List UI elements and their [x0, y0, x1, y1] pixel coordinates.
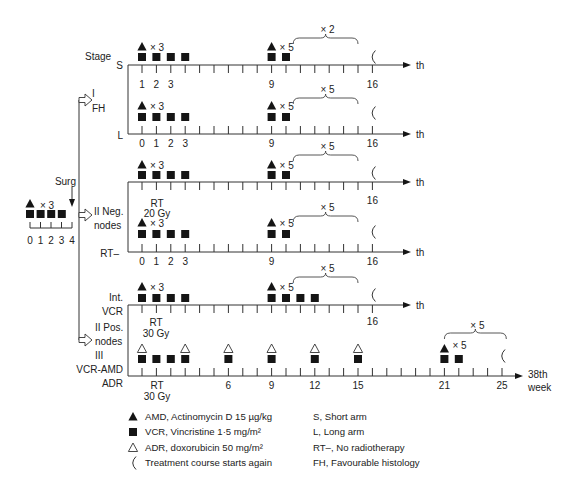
stage-branch: II Neg.nodes [79, 206, 123, 231]
vcr-marker [167, 171, 175, 179]
restart-bracket-icon [372, 289, 375, 302]
restart-bracket-icon [372, 107, 375, 120]
repeat-brace [293, 34, 358, 44]
tick-label: 3 [182, 256, 188, 267]
vcr-marker [268, 53, 276, 61]
vcr-marker [354, 355, 362, 363]
arm-label: L [117, 130, 123, 141]
timeline-row: 16× 3× 5× 5th [128, 141, 424, 206]
repeat-brace [293, 94, 358, 104]
tick-label: 3 [168, 79, 174, 90]
repeat-label: × 5 [321, 141, 336, 152]
tick-label: 16 [367, 195, 379, 206]
vcr-marker [282, 53, 290, 61]
vcr-marker [152, 230, 160, 238]
amd-marker [137, 218, 146, 227]
vcr-marker [181, 53, 189, 61]
tick-label: 12 [309, 380, 321, 391]
vcr-marker [311, 355, 319, 363]
repeat-brace [444, 329, 506, 339]
multiplier-label: × 3 [150, 218, 165, 229]
vcr-marker [282, 294, 290, 302]
abbreviation-text: RT–, No radiotherapy [313, 442, 405, 453]
arm-label: ADR [102, 378, 123, 389]
arm-label: Int. [109, 292, 123, 303]
vcr-marker [268, 230, 276, 238]
vcr-marker [167, 355, 175, 363]
multiplier-label: × 5 [452, 340, 467, 351]
filled-square-icon [129, 428, 137, 436]
legend-item: ADR, doxorubicin 50 mg/m² [128, 442, 263, 453]
adr-marker [224, 344, 233, 353]
multiplier-label: × 3 [150, 282, 165, 293]
amd-marker [25, 199, 34, 208]
tick-label: 9 [269, 79, 275, 90]
amd-marker [137, 101, 146, 110]
vcr-marker [181, 230, 189, 238]
tick-label: 9 [269, 380, 275, 391]
arrow-right-icon [403, 302, 411, 308]
end-label: th [416, 60, 424, 71]
adr-marker [137, 344, 146, 353]
abbreviation-text: L, Long arm [313, 426, 364, 437]
tick-label: 3 [59, 235, 65, 246]
tick-label: 0 [27, 235, 33, 246]
adr-marker [267, 344, 276, 353]
end-label: th [416, 129, 424, 140]
tick-label: 0 [139, 138, 145, 149]
vcr-marker [282, 171, 290, 179]
arrow-down-icon [69, 199, 75, 207]
pre-surgery-schedule: × 301234 [25, 199, 75, 246]
tick-label: 1 [154, 138, 160, 149]
branch-label: II Pos. [95, 322, 123, 333]
abbreviation-text: S, Short arm [313, 411, 367, 422]
repeat-brace [293, 151, 358, 161]
legend-item: AMD, Actinomycin D 15 µg/kg [128, 411, 272, 422]
tick-label: 21 [439, 380, 451, 391]
multiplier-label: × 3 [150, 42, 165, 53]
branch-label: II Neg. [94, 206, 123, 217]
hollow-arrow-icon [79, 209, 92, 221]
tick-label: 1 [154, 256, 160, 267]
vcr-marker [455, 355, 463, 363]
wilms-tumour-treatment-schedule-diagram: Stage× 301234SurgIFHII Neg.nodesII Pos.n… [0, 0, 577, 491]
vcr-marker [440, 355, 448, 363]
multiplier-label: × 5 [280, 101, 295, 112]
tick-label: 6 [226, 380, 232, 391]
repeat-label: × 5 [321, 263, 336, 274]
restart-bracket-icon [133, 457, 136, 470]
amd-marker [267, 42, 276, 51]
end-label: week [527, 382, 552, 393]
legend-text: AMD, Actinomycin D 15 µg/kg [145, 411, 272, 422]
tick-label: 1 [38, 235, 44, 246]
tick-label: 2 [168, 256, 174, 267]
vcr-marker [138, 113, 146, 121]
vcr-marker [181, 355, 189, 363]
repeat-brace [293, 273, 358, 283]
tick-label: 3 [182, 138, 188, 149]
branch-label: FH [92, 103, 105, 114]
legend-text: ADR, doxorubicin 50 mg/m² [145, 442, 264, 453]
multiplier-label: × 5 [280, 42, 295, 53]
stage-branch: IFH [79, 88, 105, 114]
restart-bracket-icon [372, 226, 375, 239]
vcr-marker [26, 210, 34, 218]
amd-marker [267, 282, 276, 291]
vcr-marker [152, 53, 160, 61]
arrow-right-icon [403, 249, 411, 255]
vcr-marker [138, 171, 146, 179]
vcr-marker [282, 230, 290, 238]
amd-marker [137, 42, 146, 51]
multiplier-label: × 3 [40, 200, 55, 211]
end-label: 38th [528, 369, 547, 380]
restart-bracket-icon [372, 167, 375, 180]
stage-branch: II Pos.nodesIII [79, 322, 123, 361]
tick-label: 25 [496, 380, 508, 391]
timeline-row: 0123916× 3× 5× 5Lth [117, 84, 424, 149]
annotation-line: RT [149, 317, 162, 328]
arm-label: RT– [100, 248, 119, 259]
hollow-arrow-icon [79, 94, 92, 106]
vcr-marker [181, 171, 189, 179]
restart-bracket-icon [502, 350, 505, 363]
vcr-marker [268, 294, 276, 302]
